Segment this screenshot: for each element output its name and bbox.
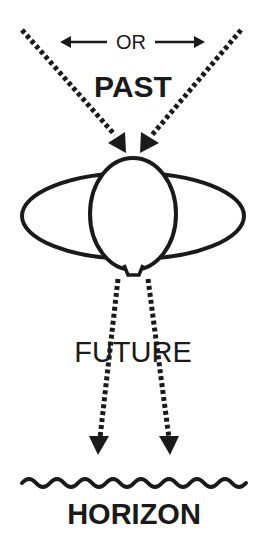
right-arrowhead-icon [194, 36, 205, 48]
arrowhead-icon [159, 436, 179, 455]
past-future-horizon-diagram: OR PAST FUTURE HORIZON [0, 0, 260, 555]
left-arrowhead-icon [60, 36, 71, 48]
or-label: OR [116, 31, 146, 53]
or-double-arrow: OR [60, 31, 205, 53]
arrowhead-icon [89, 436, 109, 455]
arrowhead-icon [140, 132, 159, 153]
horizon-label: HORIZON [67, 498, 201, 530]
past-label: PAST [94, 70, 172, 103]
future-label: FUTURE [74, 336, 192, 368]
eye-pupil-oval [90, 158, 176, 270]
eye-notch [124, 265, 143, 275]
eye-icon [22, 158, 244, 275]
horizon-wave-line [22, 479, 246, 487]
arrowhead-icon [108, 132, 126, 153]
